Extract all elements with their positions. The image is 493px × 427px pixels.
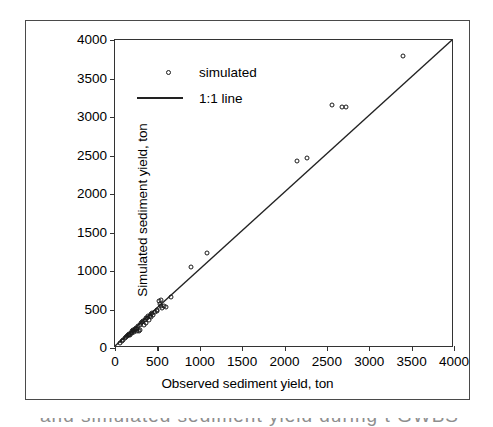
scatter-point xyxy=(155,309,160,314)
x-tick xyxy=(157,346,158,351)
x-axis-title: Observed sediment yield, ton xyxy=(26,376,469,391)
x-tick xyxy=(327,346,328,351)
legend-item-simulated: simulated xyxy=(137,62,257,82)
y-tick xyxy=(110,40,115,41)
y-tick xyxy=(110,233,115,234)
y-tick xyxy=(110,117,115,118)
y-tick xyxy=(110,156,115,157)
y-tick-label: 1000 xyxy=(77,264,107,278)
scatter-point xyxy=(304,155,309,160)
y-tick-label: 2500 xyxy=(77,149,107,163)
x-tick-label: 1000 xyxy=(185,355,215,369)
solid-line-icon xyxy=(137,97,199,98)
x-tick-label: 2000 xyxy=(269,355,299,369)
open-circle-marker-icon xyxy=(137,70,199,75)
x-tick xyxy=(242,346,243,351)
y-tick-label: 0 xyxy=(99,341,107,355)
x-tick xyxy=(369,346,370,351)
y-tick-label: 1500 xyxy=(77,226,107,240)
y-tick xyxy=(110,271,115,272)
legend-item-one-to-one: 1:1 line xyxy=(137,88,257,108)
y-tick xyxy=(110,79,115,80)
x-tick-label: 4000 xyxy=(439,355,469,369)
plot-area: 05001000150020002500300035004000 0500100… xyxy=(114,39,453,347)
legend-label-one-to-one: 1:1 line xyxy=(199,91,243,106)
x-tick xyxy=(454,346,455,351)
caption-fragment: and simulated sediment yield during t GW… xyxy=(40,418,460,427)
scatter-point xyxy=(329,103,334,108)
scatter-point xyxy=(400,53,405,58)
scatter-point xyxy=(205,251,210,256)
y-tick-label: 4000 xyxy=(77,33,107,47)
y-tick-label: 3000 xyxy=(77,110,107,124)
y-tick-label: 3500 xyxy=(77,72,107,86)
caption-fragment-text: and simulated sediment yield during t GW… xyxy=(40,418,460,427)
figure-frame: Simulated sediment yield, ton Observed s… xyxy=(25,20,470,400)
scatter-point xyxy=(189,265,194,270)
x-tick-label: 0 xyxy=(111,355,119,369)
x-tick-label: 2500 xyxy=(312,355,342,369)
y-tick-label: 500 xyxy=(84,303,107,317)
chart-legend: simulated 1:1 line xyxy=(137,62,257,114)
y-tick xyxy=(110,194,115,195)
scatter-point xyxy=(138,327,143,332)
x-tick-label: 1500 xyxy=(227,355,257,369)
x-tick-label: 500 xyxy=(146,355,169,369)
scatter-point xyxy=(343,104,348,109)
x-tick xyxy=(200,346,201,351)
x-tick xyxy=(285,346,286,351)
y-tick xyxy=(110,310,115,311)
x-tick xyxy=(412,346,413,351)
scatter-point xyxy=(295,158,300,163)
x-tick-label: 3500 xyxy=(397,355,427,369)
legend-label-simulated: simulated xyxy=(199,65,257,80)
scatter-point xyxy=(168,294,173,299)
x-tick-label: 3000 xyxy=(354,355,384,369)
scatter-point xyxy=(159,297,164,302)
y-tick-label: 2000 xyxy=(77,187,107,201)
x-tick xyxy=(115,346,116,351)
scatter-point xyxy=(163,305,168,310)
